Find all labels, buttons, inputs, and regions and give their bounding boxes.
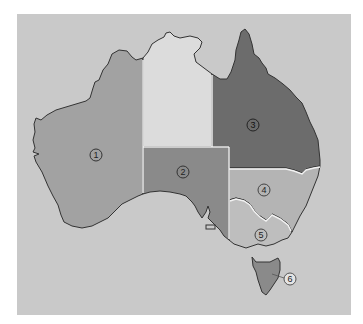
region-northern-territory[interactable] <box>143 32 212 147</box>
label-1: 1 <box>90 149 102 161</box>
label-2: 2 <box>177 166 189 178</box>
label-6: 6 <box>284 273 296 285</box>
svg-text:4: 4 <box>261 185 266 195</box>
label-5: 5 <box>255 229 267 241</box>
kangaroo-island <box>206 225 215 229</box>
region-2[interactable] <box>143 147 229 240</box>
region-6[interactable] <box>252 257 280 295</box>
australia-map: 1 2 3 4 5 6 <box>0 0 363 324</box>
label-3: 3 <box>247 119 259 131</box>
svg-text:1: 1 <box>93 150 98 160</box>
label-4: 4 <box>258 184 270 196</box>
svg-text:5: 5 <box>258 230 263 240</box>
svg-text:2: 2 <box>180 167 185 177</box>
region-1[interactable] <box>33 50 143 228</box>
svg-text:3: 3 <box>250 120 255 130</box>
svg-text:6: 6 <box>287 274 292 284</box>
